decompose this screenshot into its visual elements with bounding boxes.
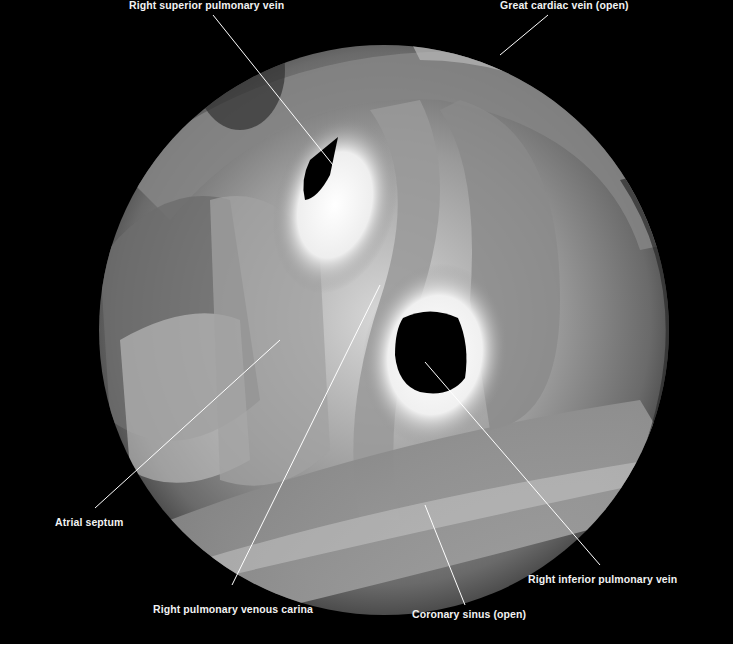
inferior-vein-orifice <box>395 312 466 394</box>
label-right-superior-pulmonary-vein: Right superior pulmonary vein <box>129 0 284 11</box>
label-great-cardiac-vein: Great cardiac vein (open) <box>500 0 629 11</box>
label-right-pulmonary-venous-carina: Right pulmonary venous carina <box>153 603 313 615</box>
label-coronary-sinus: Coronary sinus (open) <box>412 608 526 620</box>
label-atrial-septum: Atrial septum <box>55 516 123 528</box>
label-right-inferior-pulmonary-vein: Right inferior pulmonary vein <box>528 573 677 585</box>
tissue-illustration <box>0 0 733 644</box>
endoscopic-image: Right superior pulmonary vein Great card… <box>0 0 733 644</box>
